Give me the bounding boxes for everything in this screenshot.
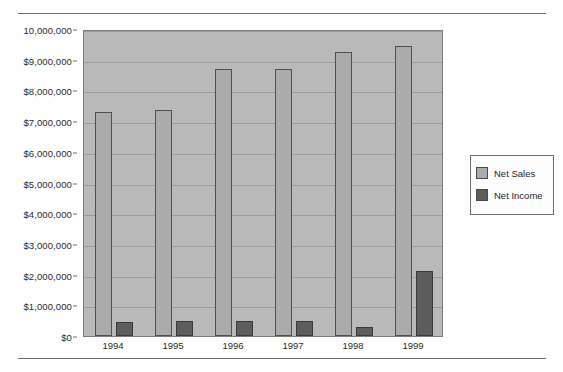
y-axis-tick-mark [73,60,77,61]
gridline [84,154,442,155]
figure-top-rule [18,13,546,14]
gridline [84,277,442,278]
x-axis-tick-label: 1996 [222,340,243,351]
y-axis-tick-mark [73,214,77,215]
bar-net-sales-1996 [215,69,232,336]
y-axis-tick-mark [73,244,77,245]
x-axis-tick-label: 1997 [282,340,303,351]
y-axis-tick-mark [73,30,77,31]
y-axis-tick-mark [73,91,77,92]
bar-net-sales-1994 [95,112,112,336]
y-axis-tick-label: $4,000,000 [23,209,72,220]
legend-swatch-icon [476,189,488,201]
y-axis-tick-label: $0 [61,332,72,343]
figure-bottom-rule [18,358,546,359]
y-axis-tick-label: $7,000,000 [23,117,72,128]
bar-net-income-1996 [236,321,253,336]
bar-net-sales-1995 [155,110,172,336]
y-axis-tick-label: $9,000,000 [23,55,72,66]
chart-legend: Net SalesNet Income [470,155,554,215]
bar-net-income-1994 [116,322,133,336]
gridline [84,92,442,93]
bar-net-income-1999 [416,271,433,336]
gridline [84,215,442,216]
y-axis-tick-label: $1,000,000 [23,301,72,312]
y-axis-tick-mark [73,275,77,276]
gridline [84,62,442,63]
x-axis-tick-label: 1998 [342,340,363,351]
bar-net-income-1995 [176,321,193,336]
bar-net-income-1997 [296,321,313,336]
bar-net-sales-1998 [335,52,352,336]
chart-figure: $0$1,000,000$2,000,000$3,000,000$4,000,0… [0,0,563,372]
gridline [84,31,442,32]
bar-net-sales-1997 [275,69,292,336]
x-axis-tick-label: 1994 [102,340,123,351]
legend-entry: Net Income [476,184,548,206]
y-axis-tick-label: $6,000,000 [23,147,72,158]
plot-area [83,30,443,337]
bar-net-income-1998 [356,327,373,336]
x-axis: 199419951996199719981999 [83,340,443,358]
y-axis-tick-label: $5,000,000 [23,178,72,189]
x-axis-tick-label: 1999 [402,340,423,351]
legend-label: Net Income [494,190,543,201]
y-axis: $0$1,000,000$2,000,000$3,000,000$4,000,0… [0,30,77,337]
y-axis-tick-label: $3,000,000 [23,239,72,250]
y-axis-tick-mark [73,122,77,123]
gridline [84,307,442,308]
y-axis-tick-label: $2,000,000 [23,270,72,281]
y-axis-tick-mark [73,306,77,307]
y-axis-tick-mark [73,337,77,338]
gridline [84,185,442,186]
y-axis-tick-label: $8,000,000 [23,86,72,97]
x-axis-tick-label: 1995 [162,340,183,351]
y-axis-tick-label: 10,000,000 [23,25,72,36]
legend-swatch-icon [476,167,488,179]
bar-net-sales-1999 [395,46,412,336]
gridline [84,123,442,124]
y-axis-tick-mark [73,152,77,153]
legend-label: Net Sales [494,168,535,179]
y-axis-tick-mark [73,183,77,184]
legend-entry: Net Sales [476,162,548,184]
gridline [84,246,442,247]
